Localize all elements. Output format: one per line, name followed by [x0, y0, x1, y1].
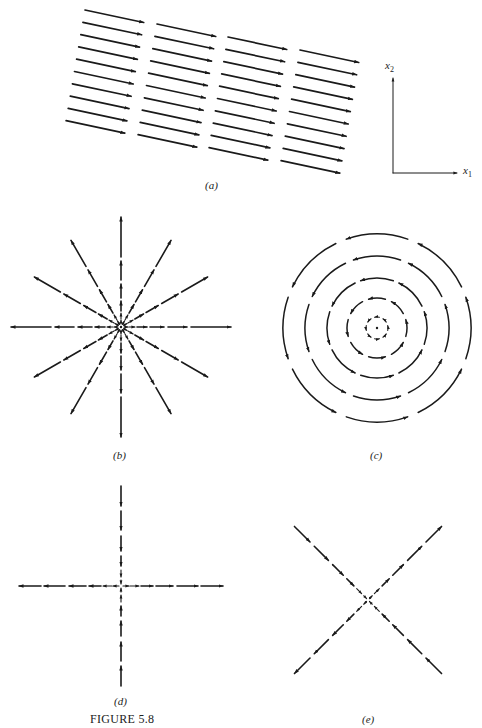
flow-arrow — [144, 98, 203, 110]
origin-point — [376, 327, 378, 329]
source-arrow — [100, 290, 107, 302]
circulation-arrow — [399, 350, 422, 373]
circulation-arrow — [351, 302, 363, 314]
source-arrow — [145, 368, 155, 384]
figure-title: FIGURE 5.8 — [90, 712, 154, 727]
flow-arrow — [138, 135, 197, 147]
flow-arrow — [211, 135, 270, 147]
source-arrow — [146, 306, 158, 313]
circulation-arrow — [418, 369, 461, 412]
flow-arrow — [300, 50, 359, 62]
source-arrow — [34, 277, 60, 292]
flow-arrow — [222, 74, 281, 86]
source-arrow — [108, 341, 113, 350]
source-arrow — [124, 329, 127, 331]
circulation-arrow — [283, 297, 288, 358]
circulation-arrow — [351, 342, 363, 354]
flow-arrow — [290, 112, 349, 124]
flow-arrow — [149, 73, 208, 85]
outflow-arrow — [369, 596, 372, 599]
flow-arrow — [77, 59, 136, 71]
circulation-arrow — [353, 396, 400, 400]
source-arrow — [98, 314, 107, 319]
source-arrow — [88, 270, 98, 286]
source-arrow — [156, 240, 171, 266]
axis-label-x1: x1 — [463, 164, 472, 179]
flow-arrow — [147, 86, 206, 98]
source-arrow — [98, 335, 107, 340]
inflow-arrow — [382, 614, 389, 621]
source-arrow — [125, 334, 128, 339]
source-arrow — [114, 315, 117, 320]
flow-arrow — [298, 62, 357, 74]
circulation-arrow — [424, 312, 427, 345]
source-arrow — [109, 331, 114, 334]
outflow-arrow — [357, 606, 362, 611]
inflow-arrow — [369, 601, 372, 604]
circulation-arrow — [353, 256, 400, 260]
circulation-arrow — [408, 359, 441, 392]
axis-label-x2: x2 — [385, 59, 394, 74]
source-arrow — [64, 294, 80, 304]
figure-canvas — [0, 0, 482, 728]
inflow-arrow — [364, 596, 367, 599]
origin-point — [120, 326, 122, 328]
flow-arrow — [140, 122, 199, 134]
circulation-arrow — [399, 283, 422, 306]
flow-arrow — [79, 47, 138, 59]
circulation-arrow — [445, 304, 449, 351]
source-arrow — [71, 388, 86, 414]
source-arrow — [88, 368, 98, 384]
panel-d-saddle — [19, 486, 223, 686]
flow-arrow — [151, 61, 210, 73]
flow-arrow — [142, 110, 201, 122]
source-arrow — [100, 352, 107, 364]
source-arrow — [109, 320, 114, 323]
panel-e-rotated-saddle — [294, 526, 441, 673]
inflow-arrow — [374, 606, 379, 611]
flow-arrow — [283, 148, 342, 160]
source-arrow — [162, 351, 178, 361]
outflow-arrow — [382, 579, 389, 586]
circulation-arrow — [312, 359, 345, 392]
source-arrow — [162, 294, 178, 304]
source-arrow — [129, 341, 134, 350]
source-arrow — [182, 362, 208, 377]
source-arrow — [115, 324, 118, 326]
flow-arrow — [81, 35, 140, 47]
source-arrow — [156, 388, 171, 414]
caption-d: (d) — [114, 695, 127, 707]
circulation-arrow — [368, 334, 371, 337]
circulation-arrow — [369, 298, 386, 299]
circulation-arrow — [408, 263, 441, 296]
flow-arrow — [296, 75, 355, 87]
circulation-arrow — [292, 369, 335, 412]
panel-b-radial-source — [11, 217, 231, 437]
circulation-arrow — [391, 342, 403, 354]
flow-arrow — [220, 86, 279, 98]
caption-b: (b) — [113, 449, 126, 461]
outflow-arrow — [314, 640, 328, 654]
circulation-arrow — [383, 319, 386, 322]
outflow-arrow — [294, 658, 310, 674]
outflow-arrow — [364, 601, 367, 604]
source-arrow — [136, 290, 143, 302]
flow-arrow — [287, 124, 346, 136]
circulation-arrow — [361, 375, 394, 378]
flow-arrow — [83, 22, 142, 34]
outflow-arrow — [347, 614, 354, 621]
source-arrow — [125, 315, 128, 320]
flow-arrow — [155, 36, 214, 48]
flow-arrow — [215, 111, 274, 123]
circulation-arrow — [383, 334, 386, 337]
outflow-arrow — [333, 625, 344, 636]
inflow-arrow — [314, 546, 328, 560]
source-arrow — [84, 342, 96, 349]
source-arrow — [136, 352, 143, 364]
source-arrow — [123, 330, 125, 333]
flow-arrow — [292, 99, 351, 111]
circulation-arrow — [327, 312, 330, 345]
outflow-arrow — [426, 526, 442, 542]
flow-arrow — [153, 49, 212, 61]
flow-arrow — [285, 136, 344, 148]
